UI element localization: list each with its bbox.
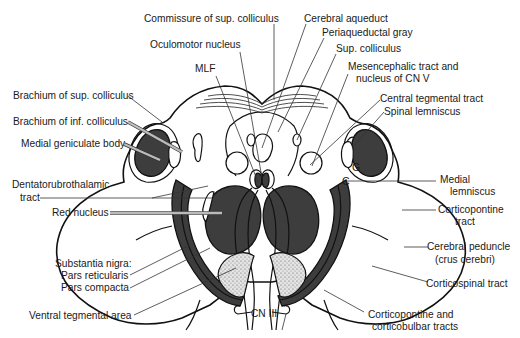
label-corticospinal-tract: Corticospinal tract <box>426 278 508 289</box>
label-red-nucleus: Red nucleus <box>52 207 109 218</box>
label-cn-iii: CN III <box>251 308 277 319</box>
label-mlf: MLF <box>195 63 215 74</box>
mesencephalic-nucleus-left <box>247 134 255 146</box>
label-pars-compacta: Pars compacta <box>61 282 129 293</box>
label-corticopontine-corticobulbar-line1: Corticopontine and <box>368 309 454 320</box>
label-commissure-sup-colliculus: Commissure of sup. colliculus <box>144 13 279 24</box>
label-medial-lemniscus-line1: Medial <box>440 174 470 185</box>
midbrain-diagram: G C Commissure of sup. colliculus Cere <box>0 0 520 338</box>
central-tegmental-tract-right <box>300 152 322 174</box>
label-cerebral-aqueduct: Cerebral aqueduct <box>304 13 388 24</box>
label-substantia-nigra: Substantia nigra: <box>55 258 131 269</box>
red-nucleus-right <box>263 186 318 254</box>
label-spinal-lemniscus: Spinal lemniscus <box>384 106 460 117</box>
label-corticopontine-tract-line1: Corticopontine <box>438 204 504 215</box>
label-dentatorubrothalamic-line1: Dentatorubrothalamic <box>12 179 109 190</box>
label-oculomotor-nucleus: Oculomotor nucleus <box>150 39 241 50</box>
label-corticopontine-tract-line2: tract <box>455 216 475 227</box>
cerebral-aqueduct <box>253 134 273 162</box>
label-sup-colliculus: Sup. colliculus <box>336 43 401 54</box>
central-tegmental-tract-left <box>226 152 248 174</box>
label-central-tegmental-tract: Central tegmental tract <box>380 93 483 104</box>
label-cerebral-peduncle-line2: (crus cerebri) <box>435 254 495 265</box>
label-brachium-inf-colliculus: Brachium of inf. colliculus <box>13 116 128 127</box>
red-nucleus-left <box>205 186 260 254</box>
label-ventral-tegmental-area: Ventral tegmental area <box>29 310 132 321</box>
label-cerebral-peduncle-line1: Cerebral peduncle <box>427 241 511 252</box>
label-dentatorubrothalamic-line2: tract <box>20 192 40 203</box>
label-mesencephalic-line1: Mesencephalic tract and <box>348 61 459 72</box>
letter-g: G <box>352 161 360 173</box>
label-brachium-sup-colliculus: Brachium of sup. colliculus <box>13 90 134 101</box>
label-periaqueductal-gray: Periaqueductal gray <box>322 27 414 38</box>
label-medial-geniculate-body: Medial geniculate body <box>21 138 126 149</box>
label-medial-lemniscus-line2: lemniscus <box>450 186 495 197</box>
label-pars-reticularis: Pars reticularis <box>61 270 128 281</box>
label-mesencephalic-line2: nucleus of CN V <box>356 73 430 84</box>
label-corticopontine-corticobulbar-line2: corticobulbar tracts <box>372 321 458 332</box>
